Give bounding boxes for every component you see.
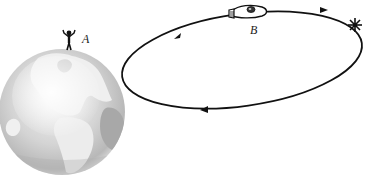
arrow-upper-right-icon: [320, 7, 328, 13]
label-spaceship-B: B: [250, 24, 257, 36]
label-observer-A: A: [82, 33, 89, 45]
spaceship-B: [229, 5, 267, 18]
diagram-canvas: [0, 0, 369, 178]
arrow-bottom-icon: [200, 106, 208, 113]
star-burst-icon: [348, 18, 362, 32]
earth-globe: [0, 49, 130, 178]
arrow-upper-left-icon: [174, 33, 181, 39]
person-A: [63, 30, 75, 50]
